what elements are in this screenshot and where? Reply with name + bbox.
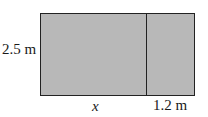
height-label: 2.5 m xyxy=(2,42,36,57)
outer-rectangle xyxy=(40,13,195,96)
right-width-label: 1.2 m xyxy=(153,98,187,113)
x-width-label: x xyxy=(92,99,99,114)
divider-line xyxy=(146,13,147,96)
